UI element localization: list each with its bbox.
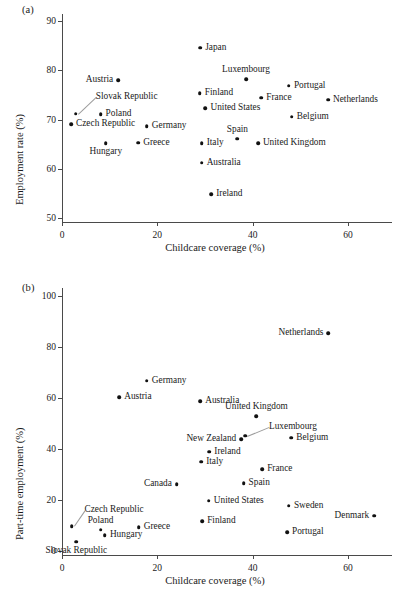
data-point	[200, 520, 204, 524]
data-point	[198, 92, 202, 96]
y-axis-tick-label: 40	[30, 444, 56, 454]
data-point-label: Finland	[207, 517, 235, 526]
data-point-label: Poland	[88, 516, 114, 525]
data-point-label: New Zealand	[186, 434, 236, 443]
data-point	[326, 98, 330, 102]
data-point-label: Canada	[144, 480, 172, 489]
data-point	[236, 137, 240, 141]
data-point-label: Ireland	[216, 190, 242, 199]
data-point-label: Belgium	[297, 112, 329, 121]
y-axis-line	[62, 288, 63, 555]
x-axis-line	[62, 222, 392, 223]
y-axis-tick	[58, 120, 62, 121]
data-point	[145, 379, 149, 383]
y-axis-tick	[58, 449, 62, 450]
data-point	[290, 115, 294, 119]
y-axis-tick-label: 60	[30, 393, 56, 403]
data-point	[198, 399, 202, 403]
data-point-label: Luxembourg	[222, 65, 270, 74]
data-point-label: Portugal	[292, 528, 324, 537]
data-point	[70, 524, 74, 528]
y-axis-tick-label: 20	[30, 495, 56, 505]
y-axis-tick-label: 90	[30, 16, 56, 26]
y-axis-tick-label: 80	[30, 65, 56, 75]
y-axis-tick	[58, 500, 62, 501]
y-axis-tick-label: 100	[30, 291, 56, 301]
data-point-label: Japan	[205, 43, 226, 52]
data-point-label: Hungary	[90, 147, 123, 156]
data-point	[207, 450, 211, 454]
data-point	[242, 482, 246, 486]
x-axis-tick-label: 60	[343, 230, 353, 240]
x-axis-tick	[348, 555, 349, 559]
data-point-label: United States	[210, 104, 260, 113]
y-axis-tick	[58, 347, 62, 348]
data-point	[116, 78, 120, 82]
data-point	[137, 525, 141, 529]
data-point	[287, 504, 291, 508]
data-point-label: Austria	[86, 75, 113, 84]
x-axis-title: Childcare coverage (%)	[165, 575, 265, 586]
data-point	[209, 193, 213, 197]
y-axis-tick-label: 70	[30, 115, 56, 125]
data-point-label: Finland	[205, 89, 233, 98]
x-axis-tick-label: 20	[153, 230, 163, 240]
data-point	[259, 96, 263, 100]
x-axis-tick	[157, 555, 158, 559]
x-axis-tick	[253, 555, 254, 559]
y-axis-title: Employment rate (%)	[14, 114, 25, 205]
panel-a-tag: (a)	[22, 4, 34, 15]
y-axis-tick	[58, 296, 62, 297]
data-point-label: Hungary	[110, 531, 143, 540]
x-axis-tick	[157, 222, 158, 226]
label-leader-line	[247, 427, 269, 437]
data-point	[103, 533, 107, 537]
data-point-label: Greece	[143, 138, 169, 147]
y-axis-tick	[58, 398, 62, 399]
data-point-label: United Kingdom	[263, 138, 326, 147]
data-point-label: Czech Republic	[76, 119, 135, 128]
data-point-label: Netherlands	[279, 329, 324, 338]
data-point	[260, 468, 264, 472]
data-point	[244, 77, 248, 81]
y-axis-tick-label: 60	[30, 164, 56, 174]
data-point	[104, 141, 108, 145]
x-axis-tick	[253, 222, 254, 226]
x-axis-tick-label: 40	[248, 563, 258, 573]
x-axis-tick-label: 0	[60, 230, 65, 240]
x-axis-tick	[62, 222, 63, 226]
data-point	[69, 122, 73, 126]
y-axis-tick	[58, 218, 62, 219]
x-axis-tick-label: 40	[248, 230, 258, 240]
data-point-label: Spain	[249, 479, 270, 488]
x-axis-title: Childcare coverage (%)	[165, 242, 265, 253]
data-point-label: Australia	[207, 158, 241, 167]
data-point	[204, 106, 208, 110]
x-axis-tick-label: 60	[343, 563, 353, 573]
panel-a-employment-rate: (a) 50607080900204060Childcare coverage …	[0, 0, 400, 300]
y-axis-title: Part-time employment (%)	[14, 427, 25, 540]
data-point-label: United States	[214, 496, 264, 505]
data-point-label: Germany	[152, 122, 187, 131]
y-axis-tick	[58, 70, 62, 71]
data-point	[99, 112, 103, 116]
y-axis-tick	[58, 169, 62, 170]
data-point	[372, 514, 376, 518]
data-point	[287, 84, 291, 88]
data-point	[145, 125, 149, 129]
data-point	[327, 332, 331, 336]
data-point-label: Belgium	[296, 433, 328, 442]
data-point	[99, 528, 103, 532]
data-point-label: Slovak Republic	[96, 92, 158, 101]
data-point	[289, 436, 293, 440]
data-point-label: Luxembourg	[269, 422, 317, 431]
data-point	[199, 460, 203, 464]
data-point	[75, 540, 79, 544]
y-axis-tick	[58, 21, 62, 22]
data-point	[285, 531, 289, 535]
data-point-label: Netherlands	[333, 95, 378, 104]
data-point	[200, 161, 204, 165]
data-point	[256, 141, 260, 145]
data-point	[117, 395, 121, 399]
x-axis-line	[62, 555, 392, 556]
